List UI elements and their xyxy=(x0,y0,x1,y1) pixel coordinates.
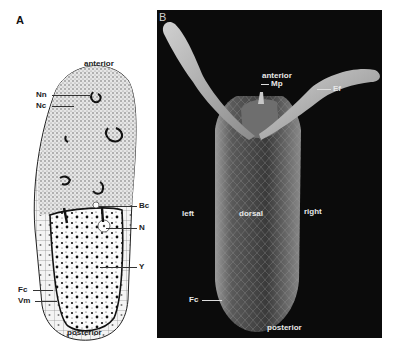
label-posterior-b: posterior xyxy=(267,323,302,332)
label-dorsal: dorsal xyxy=(239,209,263,218)
panel-b-sem-micrograph: B anterior Mp Ef left dorsal right Fc po… xyxy=(157,10,382,338)
leader-ef xyxy=(317,89,331,90)
label-ef: Ef xyxy=(333,84,341,93)
leader-vm xyxy=(35,301,57,302)
leader-fc-b xyxy=(202,300,222,301)
leader-nc xyxy=(52,106,74,107)
leader-mp xyxy=(261,84,269,85)
panel-a-drawing: A xyxy=(0,0,157,352)
label-fc-a: Fc xyxy=(18,285,27,294)
label-mp: Mp xyxy=(271,79,283,88)
egg-sem-image xyxy=(157,10,382,338)
leader-fc-a xyxy=(33,290,53,291)
label-right: right xyxy=(304,207,322,216)
label-left: left xyxy=(182,209,194,218)
label-posterior-a: posterior xyxy=(67,328,102,337)
label-anterior-a: anterior xyxy=(84,59,114,68)
leader-y xyxy=(100,267,137,268)
label-bc: Bc xyxy=(139,201,149,210)
panel-letter-b: B xyxy=(159,11,166,23)
label-y: Y xyxy=(139,262,144,271)
leader-bc xyxy=(99,206,137,207)
label-nc: Nc xyxy=(36,101,46,110)
leader-n xyxy=(106,228,137,229)
label-nn: Nn xyxy=(36,90,47,99)
label-vm: Vm xyxy=(18,296,30,305)
label-n: N xyxy=(139,223,145,232)
leader-nn xyxy=(52,95,90,96)
label-fc-b: Fc xyxy=(189,295,198,304)
